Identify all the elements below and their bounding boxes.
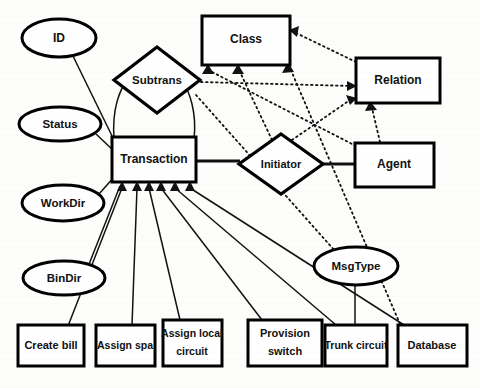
entity-class[interactable]: Class <box>202 16 290 65</box>
entity-relation[interactable]: Relation <box>356 58 440 103</box>
link-initiator-class <box>240 72 272 140</box>
link-initiator-relation <box>292 100 350 140</box>
entity-class-label: Class <box>230 32 262 46</box>
entity-agent-label: Agent <box>377 157 411 171</box>
attribute-workdir-label: WorkDir <box>41 197 86 209</box>
entity-transaction[interactable]: Transaction <box>112 137 196 182</box>
entity-relation-label: Relation <box>374 73 421 87</box>
entity-assign-local-circuit-label-line1: Assign local <box>161 327 223 339</box>
entity-database-label: Database <box>408 339 457 351</box>
entity-assign-spa-label: Assign spa <box>97 339 153 351</box>
relationship-subtrans[interactable]: Subtrans <box>114 47 200 113</box>
entity-transaction-label: Transaction <box>120 152 187 166</box>
er-diagram-svg: Transaction Class Relation Agent Create … <box>0 0 480 388</box>
attribute-msgtype-label: MsgType <box>332 260 381 272</box>
attribute-id-label: ID <box>53 31 65 45</box>
link-provision-switch-transaction <box>161 188 262 320</box>
entity-create-bill-label: Create bill <box>24 339 77 351</box>
link-agent-relation <box>372 108 380 142</box>
relationship-initiator-label: Initiator <box>261 158 302 170</box>
entity-assign-local-circuit-label-line2: circuit <box>176 345 208 357</box>
relationship-initiator[interactable]: Initiator <box>239 134 323 194</box>
link-relation-class <box>294 32 356 62</box>
er-diagram-canvas: Transaction Class Relation Agent Create … <box>0 0 480 388</box>
attribute-workdir[interactable]: WorkDir <box>22 185 104 221</box>
link-assign-spa-transaction <box>132 188 137 325</box>
entity-trunk-circuit-label: Trunk circuit <box>324 339 388 351</box>
entity-assign-local-circuit[interactable]: Assign local circuit <box>161 320 223 366</box>
entity-provision-switch-label-line1: Provision <box>260 327 310 339</box>
entity-trunk-circuit[interactable]: Trunk circuit <box>324 325 388 366</box>
entity-assign-spa[interactable]: Assign spa <box>96 325 155 366</box>
attribute-status[interactable]: Status <box>19 107 101 141</box>
entity-database[interactable]: Database <box>398 325 467 366</box>
entity-provision-switch[interactable]: Provision switch <box>248 320 322 366</box>
link-subtrans-relation <box>201 82 352 86</box>
relationship-subtrans-label: Subtrans <box>132 74 182 86</box>
attribute-status-label: Status <box>42 118 77 130</box>
entity-provision-switch-label-line2: switch <box>268 345 303 357</box>
attribute-msgtype[interactable]: MsgType <box>314 247 398 285</box>
entity-create-bill[interactable]: Create bill <box>18 325 84 366</box>
attribute-bindir-label: BinDir <box>47 272 82 284</box>
link-trunk-circuit-transaction <box>175 188 336 325</box>
attribute-id[interactable]: ID <box>22 19 96 57</box>
entity-agent[interactable]: Agent <box>355 143 434 187</box>
attribute-bindir[interactable]: BinDir <box>23 261 105 295</box>
